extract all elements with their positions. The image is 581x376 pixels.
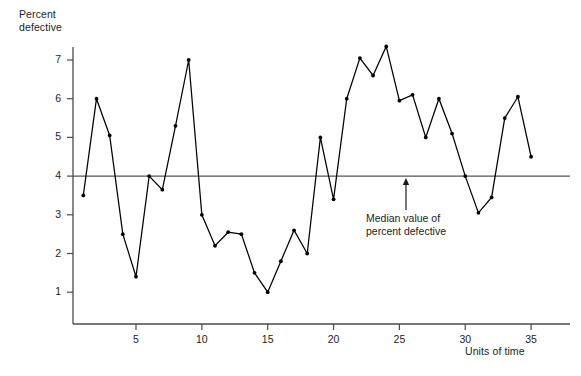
data-point [95, 97, 99, 101]
data-point [266, 290, 270, 294]
data-point [529, 155, 533, 159]
data-point [503, 116, 507, 120]
data-point [516, 95, 520, 99]
data-point [463, 174, 467, 178]
data-point [147, 174, 151, 178]
arrow-head [403, 178, 409, 185]
chart-container: Percentdefective Units of time 123456751… [0, 0, 581, 376]
data-point [384, 45, 388, 49]
x-tick-marks [136, 324, 531, 330]
data-point [121, 232, 125, 236]
y-tick-marks [67, 60, 73, 292]
data-point [437, 97, 441, 101]
data-point [292, 228, 296, 232]
data-point [318, 136, 322, 140]
data-point [332, 197, 336, 201]
plot-area [0, 0, 581, 376]
data-point [398, 99, 402, 103]
data-point [253, 271, 257, 275]
median-arrow [403, 178, 409, 210]
data-point [108, 134, 112, 138]
data-point [239, 232, 243, 236]
data-point [134, 275, 138, 279]
data-point [213, 244, 217, 248]
data-point [160, 188, 164, 192]
data-point [490, 195, 494, 199]
data-point [279, 259, 283, 263]
data-point [345, 97, 349, 101]
data-point [450, 132, 454, 136]
data-point [358, 56, 362, 60]
data-point [174, 124, 178, 128]
data-point [200, 213, 204, 217]
data-point [477, 211, 481, 215]
data-point [371, 74, 375, 78]
data-point-markers [81, 45, 533, 295]
data-point [187, 58, 191, 62]
axes-group [67, 47, 570, 330]
data-point [411, 93, 415, 97]
data-point [424, 136, 428, 140]
data-point [226, 230, 230, 234]
data-point [305, 252, 309, 256]
data-point [81, 194, 85, 198]
